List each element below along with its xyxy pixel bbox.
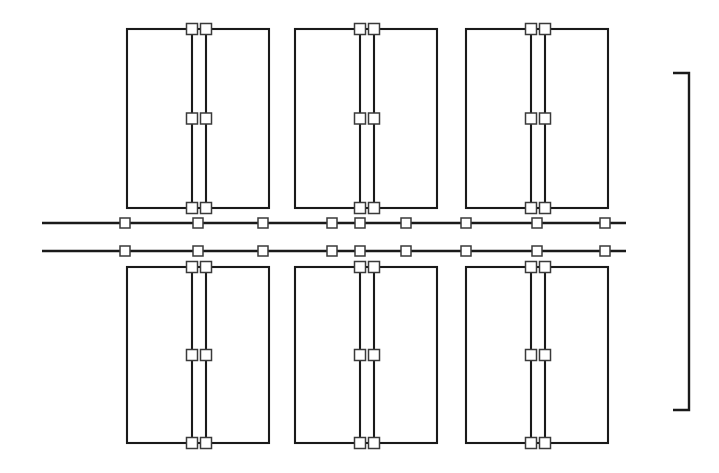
rail-upper-node-7 xyxy=(461,218,471,228)
panel-bottom-right-node-middle-2 xyxy=(540,350,551,361)
panel-bottom-left-node-sill-1 xyxy=(187,438,198,449)
panel-top-center xyxy=(295,23,437,214)
panel-top-right xyxy=(466,23,608,214)
panel-bottom-left-node-head-1 xyxy=(187,262,198,273)
rail-lower-node-3 xyxy=(258,246,268,256)
rail-lower-node-4 xyxy=(327,246,337,256)
rail-lower-node-2 xyxy=(193,246,203,256)
rail-upper-node-4 xyxy=(327,218,337,228)
rail-lower-node-5 xyxy=(355,246,365,256)
panel-bottom-center-node-head-1 xyxy=(355,262,366,273)
rail-lower-node-7 xyxy=(461,246,471,256)
panel-bottom-center-node-sill-2 xyxy=(369,438,380,449)
panel-top-center-node-sill-2 xyxy=(369,203,380,214)
panel-bottom-center xyxy=(295,261,437,449)
drawing-svg xyxy=(0,0,719,473)
panel-top-center-node-middle-1 xyxy=(355,113,366,124)
rail-upper-node-2 xyxy=(193,218,203,228)
panel-top-right-node-head-2 xyxy=(540,24,551,35)
panel-bottom-left-node-middle-1 xyxy=(187,350,198,361)
panel-bottom-right-node-head-2 xyxy=(540,262,551,273)
panel-top-center-node-head-1 xyxy=(355,24,366,35)
panel-top-right-node-middle-1 xyxy=(526,113,537,124)
rail-upper-node-6 xyxy=(401,218,411,228)
panel-bottom-left-node-head-2 xyxy=(201,262,212,273)
panel-bottom-right-node-sill-1 xyxy=(526,438,537,449)
panel-bottom-left xyxy=(127,261,269,449)
panel-bottom-left-node-middle-2 xyxy=(201,350,212,361)
rail-upper-node-3 xyxy=(258,218,268,228)
panel-bottom-center-node-middle-1 xyxy=(355,350,366,361)
panel-bottom-right-node-middle-1 xyxy=(526,350,537,361)
panel-top-left-node-head-1 xyxy=(187,24,198,35)
panel-top-left-node-head-2 xyxy=(201,24,212,35)
rail-upper-node-5 xyxy=(355,218,365,228)
panel-top-right-node-head-1 xyxy=(526,24,537,35)
panel-top-center-node-sill-1 xyxy=(355,203,366,214)
panel-group xyxy=(127,23,608,449)
rail-node-group xyxy=(120,218,610,256)
panel-bottom-right-node-head-1 xyxy=(526,262,537,273)
rail-upper-node-9 xyxy=(600,218,610,228)
panel-bottom-center-node-head-2 xyxy=(369,262,380,273)
panel-top-right-node-sill-2 xyxy=(540,203,551,214)
panel-bottom-right xyxy=(466,261,608,449)
panel-top-right-node-middle-2 xyxy=(540,113,551,124)
dimension-bracket-group xyxy=(673,73,689,410)
rail-lower-node-6 xyxy=(401,246,411,256)
panel-top-center-node-head-2 xyxy=(369,24,380,35)
panel-top-center-node-middle-2 xyxy=(369,113,380,124)
rail-lower-node-8 xyxy=(532,246,542,256)
height-dimension-bracket xyxy=(673,73,689,410)
rail-upper-node-8 xyxy=(532,218,542,228)
rail-upper-node-1 xyxy=(120,218,130,228)
panel-top-right-node-sill-1 xyxy=(526,203,537,214)
panel-bottom-right-node-sill-2 xyxy=(540,438,551,449)
panel-bottom-left-node-sill-2 xyxy=(201,438,212,449)
rail-lower-node-1 xyxy=(120,246,130,256)
panel-top-left-node-middle-1 xyxy=(187,113,198,124)
rail-lower-node-9 xyxy=(600,246,610,256)
panel-top-left-node-sill-1 xyxy=(187,203,198,214)
panel-bottom-center-node-sill-1 xyxy=(355,438,366,449)
panel-bottom-center-node-middle-2 xyxy=(369,350,380,361)
technical-drawing-canvas: Curtain Wall Panel Assembly Plan Six rec… xyxy=(0,0,719,473)
panel-top-left-node-sill-2 xyxy=(201,203,212,214)
panel-top-left-node-middle-2 xyxy=(201,113,212,124)
panel-top-left xyxy=(127,23,269,214)
